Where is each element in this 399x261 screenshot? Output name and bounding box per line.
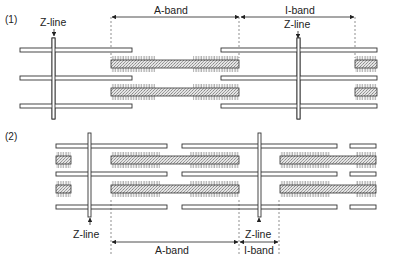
panel-2: (2) (5, 131, 376, 256)
panel-1-label: (1) (5, 14, 17, 25)
panel-2-label: (2) (5, 131, 17, 142)
z-line-label-right: Z-line (284, 18, 310, 30)
a-band-label-2: A-band (155, 244, 189, 256)
panel-1: (1) Z-line Z-line A-band I-band (5, 4, 377, 119)
z-disc-left-2 (88, 133, 91, 217)
z-line-label-left-2: Z-line (73, 228, 99, 240)
z-line-label-left: Z-line (40, 16, 66, 28)
z-disc-right-2 (258, 133, 261, 217)
i-band-label: I-band (285, 4, 315, 16)
a-band-label: A-band (154, 4, 188, 16)
i-band-label-2: I-band (244, 244, 274, 256)
z-line-label-right-2: Z-line (245, 228, 271, 240)
sarcomere-diagram: (1) Z-line Z-line A-band I-band (0, 0, 399, 261)
